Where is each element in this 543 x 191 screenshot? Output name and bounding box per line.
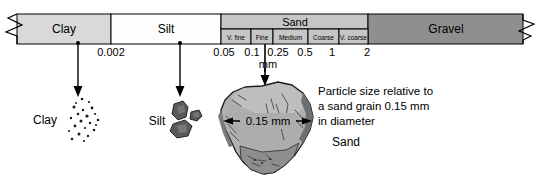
caption-line-2: a sand grain 0.15 mm: [318, 100, 429, 112]
sand-subclass-label-coarse: Coarse: [313, 34, 334, 41]
clay-particles-illustration: [68, 98, 99, 142]
tick-label-0: 0.002: [97, 46, 125, 58]
scale-label-sand: Sand: [282, 16, 308, 28]
sand-grain-illustration: 0.15 mm: [218, 82, 313, 174]
caption-line-3: in diameter: [318, 115, 375, 127]
sand-subclass-label-vcoarse: V. coarse: [340, 34, 367, 41]
grain-dimension-label: 0.15 mm: [246, 115, 291, 127]
tick-label-2: 0.1: [244, 46, 259, 58]
sand-subclass-label-vfine: V. fine: [227, 34, 245, 41]
sand-subclass-label-fine: Fine: [256, 34, 269, 41]
clay-callout-label: Clay: [33, 113, 57, 127]
tick-label-4: 0.5: [297, 46, 312, 58]
scale-label-silt: Silt: [158, 22, 175, 36]
sand-callout-label: Sand: [332, 135, 360, 149]
silt-arrow-head: [176, 86, 185, 97]
clay-arrow-head: [74, 86, 83, 97]
sand-subclass-label-medium: Medium: [279, 34, 302, 41]
caption-line-1: Particle size relative to: [318, 85, 433, 97]
tick-label-3: 0.25: [267, 46, 288, 58]
scale-bar: Clay Silt Sand Gravel V. fine Fine Mediu…: [6, 14, 534, 70]
silt-particles-illustration: [170, 101, 202, 138]
tick-label-6: 2: [364, 46, 370, 58]
particle-size-diagram: Clay Silt Sand Gravel V. fine Fine Mediu…: [0, 0, 543, 191]
tick-label-5: 1: [329, 46, 335, 58]
figure-root: Clay Silt Sand Gravel V. fine Fine Mediu…: [0, 0, 543, 191]
tick-label-1: 0.05: [213, 46, 234, 58]
scale-label-gravel: Gravel: [428, 22, 463, 36]
silt-callout-label: Silt: [149, 114, 166, 128]
scale-label-clay: Clay: [52, 22, 76, 36]
caption-block: Particle size relative to a sand grain 0…: [318, 85, 433, 127]
units-label: mm: [259, 58, 277, 70]
